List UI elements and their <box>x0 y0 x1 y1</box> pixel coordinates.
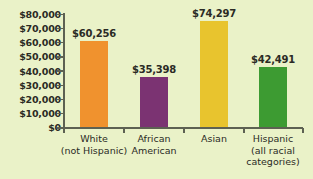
bar-asian: $74,297 <box>200 21 228 127</box>
bar-rect <box>80 41 108 127</box>
y-axis-label-30000: $30,000 <box>1 80 61 91</box>
y-axis-line <box>63 13 65 128</box>
bar-hispanic: $42,491 <box>259 67 287 128</box>
bar-rect <box>259 67 287 128</box>
y-axis-label-0: $0 <box>1 122 61 133</box>
y-axis-label-80000: $80,000 <box>1 9 61 20</box>
y-axis-label-20000: $20,000 <box>1 94 61 105</box>
y-axis-label-50000: $50,000 <box>1 51 61 62</box>
bar-white-not-hispanic: $60,256 <box>80 41 108 127</box>
category-label-line: categories) <box>231 156 313 168</box>
y-axis-label-70000: $70,000 <box>1 23 61 34</box>
bar-rect <box>140 77 168 127</box>
y-axis-label-40000: $40,000 <box>1 66 61 77</box>
bar-african-american: $35,398 <box>140 77 168 127</box>
category-label-line: Hispanic <box>231 133 313 145</box>
y-axis-label-10000: $10,000 <box>1 108 61 119</box>
x-axis-category-hispanic: Hispanic (all racial categories) <box>231 133 313 168</box>
bar-value-label: $35,398 <box>132 64 176 75</box>
bar-value-label: $42,491 <box>251 54 295 65</box>
bar-chart: $80,000 $70,000 $60,000 $50,000 $40,000 … <box>0 0 313 179</box>
bar-value-label: $74,297 <box>192 8 236 19</box>
category-label-line: (all racial <box>231 145 313 157</box>
y-axis-label-60000: $60,000 <box>1 37 61 48</box>
category-label-line: American <box>112 145 196 157</box>
bar-value-label: $60,256 <box>72 28 116 39</box>
bar-rect <box>200 21 228 127</box>
